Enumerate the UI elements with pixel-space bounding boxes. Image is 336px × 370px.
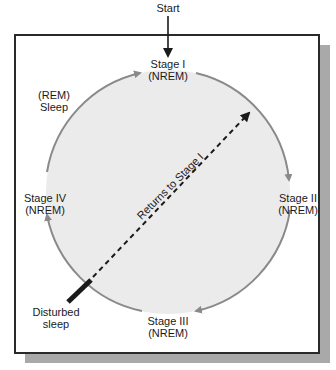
stage1-name: Stage I	[138, 58, 198, 70]
stage4-type: (NREM)	[20, 204, 70, 216]
rem-label-line1: (REM)	[34, 89, 74, 101]
stage1-type: (NREM)	[138, 70, 198, 82]
rem-label-line2: Sleep	[34, 101, 74, 113]
stage4-label: Stage IV (NREM)	[20, 192, 70, 216]
stage2-type: (NREM)	[268, 204, 328, 216]
disturbed-sleep-label: Disturbed sleep	[28, 306, 84, 330]
stage2-label: Stage II (NREM)	[268, 192, 328, 216]
rem-sleep-label: (REM) Sleep	[34, 89, 74, 113]
disturbed-sleep-bar	[68, 280, 91, 302]
stage4-name: Stage IV	[20, 192, 70, 204]
stage3-name: Stage III	[143, 315, 193, 327]
disturbed-label-line2: sleep	[28, 318, 84, 330]
stage3-type: (NREM)	[143, 327, 193, 339]
start-label: Start	[150, 2, 186, 14]
stage3-label: Stage III (NREM)	[143, 315, 193, 339]
disturbed-label-line1: Disturbed	[28, 306, 84, 318]
stage1-label: Stage I (NREM)	[138, 58, 198, 82]
stage2-name: Stage II	[268, 192, 328, 204]
